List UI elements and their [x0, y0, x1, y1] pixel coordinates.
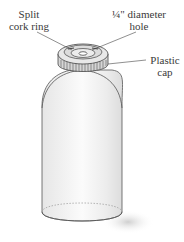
- bottle-diagram: [0, 0, 184, 242]
- label-hole: ¼" diameter hole: [108, 8, 170, 32]
- label-plastic-cap-line2: cap: [145, 66, 184, 78]
- quarter-inch-hole: [79, 52, 87, 56]
- leader-hole: [92, 32, 136, 50]
- label-hole-line1: ¼" diameter: [108, 8, 170, 20]
- label-plastic-cap: Plastic cap: [145, 54, 184, 78]
- label-hole-line2: hole: [108, 20, 170, 32]
- label-split-cork-ring-line1: Split: [5, 8, 53, 20]
- bottle-body: [42, 70, 123, 221]
- label-split-cork-ring-line2: cork ring: [5, 20, 53, 32]
- label-split-cork-ring: Split cork ring: [5, 8, 53, 32]
- leader-plastic-cap: [108, 60, 146, 64]
- label-plastic-cap-line1: Plastic: [145, 54, 184, 66]
- leader-split-cork-ring: [37, 32, 72, 50]
